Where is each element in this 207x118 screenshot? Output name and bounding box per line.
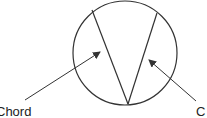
circle-diagram: Chord C [0,0,207,118]
arrow-left [25,52,100,100]
label-chord: Chord [0,104,31,118]
chord-right [128,13,157,104]
label-c: C [196,104,205,118]
circle [73,1,177,105]
chord-left [92,10,128,104]
